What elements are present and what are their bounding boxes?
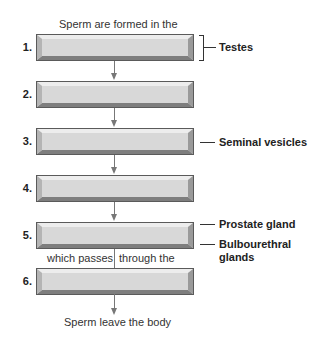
testes-bracket [199, 35, 204, 61]
connector-6-exit [114, 294, 115, 309]
label-bulbourethral-line2: glands [219, 251, 291, 264]
step-number-2: 2. [12, 88, 32, 100]
step-number-5: 5. [12, 229, 32, 241]
bottom-caption: Sperm leave the body [64, 316, 171, 328]
label-bulbourethral-glands: Bulbourethral glands [219, 238, 291, 264]
step-number-6: 6. [12, 275, 32, 287]
arrow-down-icon [111, 73, 117, 80]
label-seminal-vesicles: Seminal vesicles [219, 136, 307, 149]
arrow-down-icon [111, 120, 117, 127]
label-bulbourethral-line1: Bulbourethral [219, 238, 291, 251]
step-box-1 [36, 34, 194, 61]
prostate-gland-tick [200, 224, 215, 225]
mid-caption-right: through the [119, 252, 175, 264]
label-testes: Testes [219, 41, 253, 54]
seminal-vesicles-tick [200, 142, 215, 143]
arrow-down-icon [111, 214, 117, 221]
arrow-down-icon [111, 308, 117, 315]
step-box-2 [36, 81, 194, 108]
mid-caption-left: which passes [47, 252, 113, 264]
label-prostate-gland: Prostate gland [219, 218, 295, 231]
step-box-3 [36, 128, 194, 155]
testes-tick [204, 47, 216, 48]
connector-5-6 [114, 249, 115, 268]
step-number-1: 1. [12, 41, 32, 53]
arrow-down-icon [111, 167, 117, 174]
step-box-6 [36, 268, 194, 295]
top-caption: Sperm are formed in the [59, 18, 178, 30]
step-box-4 [36, 175, 194, 202]
step-box-5 [36, 222, 194, 249]
bulbourethral-glands-tick [200, 244, 215, 245]
step-number-3: 3. [12, 135, 32, 147]
step-number-4: 4. [12, 182, 32, 194]
